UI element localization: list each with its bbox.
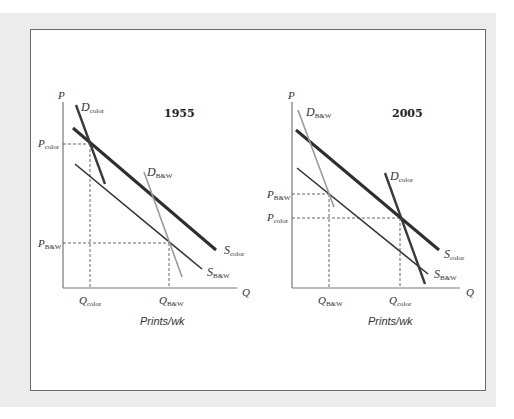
x-axis-label: Q xyxy=(466,286,474,298)
supply-demand-diagram: P Q 1955 Dcolor DB&W Scolor SB&W Pcolor … xyxy=(0,0,514,419)
year-label: 1955 xyxy=(164,107,195,120)
supply-bw-label: SB&W xyxy=(434,267,457,282)
quantity-color-label: Qcolor xyxy=(389,294,412,308)
year-label: 2005 xyxy=(392,107,423,120)
demand-bw-label: DB&W xyxy=(146,165,173,180)
demand-bw-curve xyxy=(144,172,182,277)
quantity-bw-label: QB&W xyxy=(159,294,184,308)
chart-2005: P Q 2005 DB&W Dcolor Scolor SB&W PB&W Pc… xyxy=(266,89,474,327)
demand-color-label: Dcolor xyxy=(80,100,105,115)
supply-color-label: Scolor xyxy=(444,247,465,262)
price-bw-label: PB&W xyxy=(266,188,291,202)
demand-color-label: Dcolor xyxy=(389,169,414,184)
x-units-label: Prints/wk xyxy=(368,315,413,327)
y-axis-label: P xyxy=(57,89,65,101)
y-axis-label: P xyxy=(287,89,295,101)
supply-bw-curve xyxy=(75,164,202,269)
price-color-label: Pcolor xyxy=(37,137,60,151)
supply-bw-label: SB&W xyxy=(207,265,230,280)
quantity-color-label: Qcolor xyxy=(79,294,102,308)
x-units-label: Prints/wk xyxy=(140,315,185,327)
demand-bw-label: DB&W xyxy=(305,105,332,120)
quantity-bw-label: QB&W xyxy=(318,294,343,308)
supply-color-curve xyxy=(296,130,439,250)
demand-color-curve xyxy=(385,173,425,284)
price-color-label: Pcolor xyxy=(266,211,289,225)
supply-color-label: Scolor xyxy=(224,243,245,258)
demand-color-curve xyxy=(76,105,105,184)
chart-1955: P Q 1955 Dcolor DB&W Scolor SB&W Pcolor … xyxy=(37,89,250,327)
price-bw-label: PB&W xyxy=(37,237,62,251)
supply-color-curve xyxy=(73,128,216,250)
x-axis-label: Q xyxy=(242,286,250,298)
